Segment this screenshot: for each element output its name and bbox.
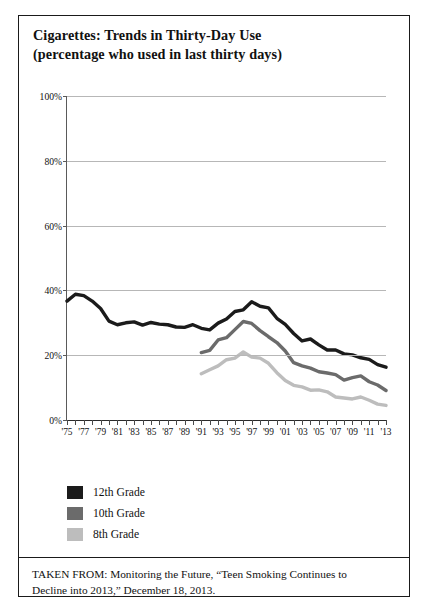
source-note-line-2: Decline into 2013,” December 18, 2013. xyxy=(32,582,394,598)
x-tick-mark xyxy=(319,420,320,425)
legend-swatch xyxy=(67,486,83,499)
x-tick-mark xyxy=(159,420,160,425)
x-tick-mark xyxy=(134,420,135,425)
x-tick-mark xyxy=(201,420,202,425)
x-tick-mark xyxy=(302,420,303,425)
x-tick-mark xyxy=(109,420,110,425)
x-tick-mark xyxy=(117,420,118,425)
x-tick-label: '13 xyxy=(380,427,391,437)
x-tick-mark xyxy=(361,420,362,425)
x-tick-mark xyxy=(185,420,186,425)
figure-card: Cigarettes: Trends in Thirty-Day Use (pe… xyxy=(18,15,410,597)
y-tick-label: 80% xyxy=(44,155,62,166)
legend-item: 8th Grade xyxy=(67,524,287,545)
y-gridline xyxy=(67,226,386,227)
x-tick-label: '09 xyxy=(347,427,358,437)
legend-swatch xyxy=(67,507,83,520)
x-tick-mark xyxy=(260,420,261,425)
x-tick-mark xyxy=(285,420,286,425)
source-note: TAKEN FROM: Monitoring the Future, “Teen… xyxy=(32,566,394,598)
x-tick-mark xyxy=(151,420,152,425)
x-tick-mark xyxy=(126,420,127,425)
x-tick-mark xyxy=(344,420,345,425)
x-tick-label: '95 xyxy=(229,427,240,437)
x-tick-mark xyxy=(84,420,85,425)
source-divider xyxy=(19,557,409,558)
y-tick-label: 60% xyxy=(44,220,62,231)
y-tick-label: 40% xyxy=(44,285,62,296)
x-tick-label: '07 xyxy=(330,427,341,437)
x-tick-mark xyxy=(277,420,278,425)
x-tick-mark xyxy=(310,420,311,425)
x-tick-mark xyxy=(378,420,379,425)
x-tick-label: '89 xyxy=(179,427,190,437)
x-tick-mark xyxy=(92,420,93,425)
x-tick-mark xyxy=(218,420,219,425)
x-tick-label: '79 xyxy=(95,427,106,437)
x-tick-label: '83 xyxy=(129,427,140,437)
chart-plot-block: 0%20%40%60%80%100%'75'77'79'81'83'85'87'… xyxy=(19,78,411,468)
x-tick-label: '87 xyxy=(162,427,173,437)
x-tick-label: '01 xyxy=(280,427,291,437)
x-tick-label: '85 xyxy=(145,427,156,437)
x-tick-label: '03 xyxy=(297,427,308,437)
x-tick-mark xyxy=(336,420,337,425)
x-tick-label: '93 xyxy=(213,427,224,437)
x-tick-mark xyxy=(227,420,228,425)
x-tick-mark xyxy=(294,420,295,425)
x-tick-label: '75 xyxy=(61,427,72,437)
x-tick-mark xyxy=(101,420,102,425)
y-gridline xyxy=(67,290,386,291)
chart-series-layer xyxy=(67,96,386,420)
y-tick-label: 0% xyxy=(49,415,62,426)
x-tick-mark xyxy=(369,420,370,425)
x-tick-mark xyxy=(327,420,328,425)
x-tick-mark xyxy=(352,420,353,425)
x-tick-label: '99 xyxy=(263,427,274,437)
y-tick-mark xyxy=(63,161,67,162)
y-tick-mark xyxy=(63,355,67,356)
y-tick-mark xyxy=(63,290,67,291)
x-tick-mark xyxy=(268,420,269,425)
y-gridline xyxy=(67,161,386,162)
x-tick-label: '77 xyxy=(78,427,89,437)
legend-item: 12th Grade xyxy=(67,482,287,503)
y-gridline xyxy=(67,96,386,97)
y-tick-label: 100% xyxy=(40,91,62,102)
chart-title-line-2: (percentage who used in last thirty days… xyxy=(33,45,393,64)
source-note-line-1: TAKEN FROM: Monitoring the Future, “Teen… xyxy=(32,566,394,582)
y-gridline xyxy=(67,355,386,356)
legend-label: 10th Grade xyxy=(93,507,145,520)
series-line xyxy=(67,294,386,367)
legend-label: 8th Grade xyxy=(93,528,139,541)
chart-title: Cigarettes: Trends in Thirty-Day Use (pe… xyxy=(33,26,393,64)
x-tick-mark xyxy=(143,420,144,425)
x-tick-mark xyxy=(210,420,211,425)
x-tick-label: '81 xyxy=(112,427,123,437)
chart-legend: 12th Grade10th Grade8th Grade xyxy=(67,482,287,545)
x-tick-mark xyxy=(168,420,169,425)
x-tick-mark xyxy=(75,420,76,425)
x-tick-mark xyxy=(252,420,253,425)
x-tick-label: '11 xyxy=(364,427,375,437)
y-tick-mark xyxy=(63,226,67,227)
y-tick-label: 20% xyxy=(44,350,62,361)
x-tick-label: '91 xyxy=(196,427,207,437)
x-tick-mark xyxy=(176,420,177,425)
x-tick-mark xyxy=(243,420,244,425)
x-tick-mark xyxy=(235,420,236,425)
legend-item: 10th Grade xyxy=(67,503,287,524)
x-tick-label: '97 xyxy=(246,427,257,437)
legend-swatch xyxy=(67,528,83,541)
chart-title-line-1: Cigarettes: Trends in Thirty-Day Use xyxy=(33,26,393,45)
chart-plot-area: 0%20%40%60%80%100%'75'77'79'81'83'85'87'… xyxy=(66,96,386,421)
x-tick-mark xyxy=(386,420,387,425)
x-tick-mark xyxy=(67,420,68,425)
x-tick-label: '05 xyxy=(313,427,324,437)
legend-label: 12th Grade xyxy=(93,486,145,499)
y-tick-mark xyxy=(63,96,67,97)
x-tick-mark xyxy=(193,420,194,425)
